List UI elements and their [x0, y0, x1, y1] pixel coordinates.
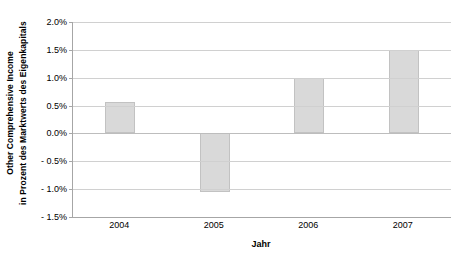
y-axis-tickmark: [69, 161, 73, 162]
bars-layer: [73, 22, 451, 217]
y-axis-tickmark: [69, 22, 73, 23]
y-axis-tickmark: [69, 78, 73, 79]
gridline: [73, 189, 451, 190]
x-axis-tick-labels: 2004200520062007: [72, 220, 450, 236]
gridline: [73, 217, 451, 218]
y-axis-tick-label: 1.5%: [46, 45, 67, 55]
y-axis-tick-labels: 2.0%1.5%1.0%0.5%0.0%- 0.5%- 1.0%- 1.5%: [34, 22, 71, 217]
y-axis-tick-label: - 1.5%: [41, 212, 67, 222]
bar-chart: Other Comprehensive Income in Prozent de…: [0, 0, 460, 260]
y-axis-tick-label: 0.5%: [46, 101, 67, 111]
x-axis-tick-label: 2004: [109, 220, 129, 230]
x-axis-tick-label: 2006: [298, 220, 318, 230]
gridline: [73, 133, 451, 134]
plot-area: [72, 22, 451, 217]
x-axis-tick-label: 2005: [204, 220, 224, 230]
y-axis-tick-label: 0.0%: [46, 128, 67, 138]
x-axis-tick-label: 2007: [393, 220, 413, 230]
y-axis-tick-label: - 0.5%: [41, 156, 67, 166]
gridline: [73, 78, 451, 79]
y-axis-tickmark: [69, 106, 73, 107]
bar: [200, 133, 230, 192]
gridline: [73, 161, 451, 162]
y-axis-title-line-1: Other Comprehensive Income: [4, 21, 17, 205]
y-axis-tickmark: [69, 133, 73, 134]
y-axis-tick-label: 1.0%: [46, 73, 67, 83]
x-axis-title: Jahr: [72, 239, 450, 249]
gridline: [73, 50, 451, 51]
y-axis-title: Other Comprehensive Income in Prozent de…: [0, 0, 34, 225]
y-axis-tick-label: - 1.0%: [41, 184, 67, 194]
gridline: [73, 106, 451, 107]
y-axis-tickmark: [69, 50, 73, 51]
bar: [389, 50, 419, 133]
y-axis-tickmark: [69, 189, 73, 190]
gridline: [73, 22, 451, 23]
y-axis-title-line-2: in Prozent des Marktwerts des Eigenkapit…: [17, 21, 30, 205]
y-axis-tick-label: 2.0%: [46, 17, 67, 27]
y-axis-tickmark: [69, 217, 73, 218]
